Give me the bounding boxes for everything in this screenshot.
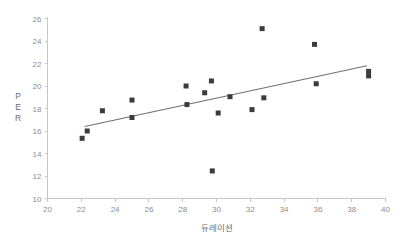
x-tick-label: 24	[111, 205, 120, 214]
y-tick-label: 22	[33, 60, 42, 69]
x-axis-title: 듀레이션	[201, 223, 233, 233]
x-tick-label: 36	[313, 205, 322, 214]
data-point-marker	[260, 26, 265, 31]
y-tick-label: 26	[33, 15, 42, 24]
data-point-marker	[202, 90, 207, 95]
x-tick-label: 28	[178, 205, 187, 214]
plot-area: 1012141618202224262022242628303234363840…	[0, 0, 403, 242]
scatter-chart: 1012141618202224262022242628303234363840…	[0, 0, 403, 242]
data-point-marker	[80, 136, 85, 141]
x-tick-label: 34	[280, 205, 289, 214]
data-point-marker	[130, 115, 135, 120]
y-tick-label: 14	[33, 150, 42, 159]
data-point-marker	[100, 108, 105, 113]
y-axis-title-letter: E	[15, 102, 21, 112]
data-point-marker	[249, 107, 254, 112]
data-point-marker	[184, 84, 189, 89]
data-point-marker	[130, 98, 135, 103]
y-tick-label: 12	[33, 172, 42, 181]
y-axis-title-letter: R	[15, 113, 21, 123]
x-tick-label: 38	[347, 205, 356, 214]
data-point-marker	[312, 42, 317, 47]
data-point-marker	[366, 73, 371, 78]
data-point-marker	[216, 111, 221, 116]
y-tick-label: 18	[33, 105, 42, 114]
x-tick-label: 20	[43, 205, 52, 214]
y-tick-label: 10	[33, 195, 42, 204]
y-tick-label: 20	[33, 82, 42, 91]
x-tick-label: 40	[381, 205, 390, 214]
data-point-marker	[209, 78, 214, 83]
data-point-marker	[314, 81, 319, 86]
y-tick-label: 16	[33, 127, 42, 136]
trend-line	[85, 66, 367, 127]
data-point-marker	[184, 102, 189, 107]
data-point-marker	[210, 168, 215, 173]
y-axis-title-letter: P	[15, 91, 21, 101]
y-tick-label: 24	[33, 37, 42, 46]
x-tick-label: 30	[212, 205, 221, 214]
x-tick-label: 22	[77, 205, 86, 214]
x-tick-label: 32	[246, 205, 255, 214]
data-point-marker	[85, 129, 90, 134]
data-point-marker	[366, 69, 371, 74]
x-tick-label: 26	[144, 205, 153, 214]
data-point-marker	[228, 94, 233, 99]
data-point-marker	[261, 95, 266, 100]
